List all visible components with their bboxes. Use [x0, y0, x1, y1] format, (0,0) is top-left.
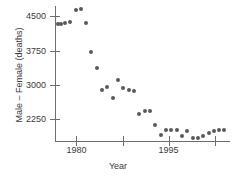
data-point	[169, 128, 173, 132]
data-point	[207, 131, 211, 135]
data-point	[84, 21, 88, 25]
data-point	[63, 21, 67, 25]
data-point	[164, 128, 168, 132]
data-point	[143, 109, 147, 113]
data-point	[148, 109, 152, 113]
data-point	[196, 136, 200, 140]
y-tick-mark	[50, 51, 60, 52]
data-point	[137, 112, 141, 116]
data-point	[153, 123, 157, 127]
data-point	[175, 128, 179, 132]
plot-area: 4500375030002250 19801995 Year Male – Fe…	[0, 0, 236, 179]
data-point	[116, 78, 120, 82]
x-tick-mark	[215, 136, 216, 146]
data-point	[185, 129, 189, 133]
data-point	[74, 8, 78, 12]
y-tick-mark	[50, 119, 60, 120]
y-axis-title-wrap: Male – Female (deaths)	[8, 0, 22, 150]
data-point	[180, 134, 184, 138]
data-point	[111, 96, 115, 100]
data-point	[191, 136, 195, 140]
x-axis-title: Year	[0, 161, 236, 171]
x-tick-label: 1980	[56, 146, 96, 155]
data-point	[105, 85, 109, 89]
data-point	[212, 129, 216, 133]
data-point	[95, 66, 99, 70]
data-point	[100, 88, 104, 92]
y-tick-mark	[50, 85, 60, 86]
x-tick-label: 1995	[149, 146, 189, 155]
data-point	[217, 128, 221, 132]
scatter-chart: 4500375030002250 19801995 Year Male – Fe…	[0, 0, 236, 179]
data-point	[79, 7, 83, 11]
data-point	[201, 134, 205, 138]
data-point	[68, 20, 72, 24]
y-tick-mark	[50, 16, 60, 17]
x-tick-mark	[123, 136, 124, 146]
y-axis-title: Male – Female (deaths)	[14, 10, 24, 140]
y-axis-line	[55, 6, 56, 142]
data-point	[132, 89, 136, 93]
data-point	[121, 86, 125, 90]
x-axis-line	[55, 141, 230, 142]
data-point	[222, 128, 226, 132]
data-point	[89, 50, 93, 54]
data-point	[127, 88, 131, 92]
data-point	[159, 133, 163, 137]
